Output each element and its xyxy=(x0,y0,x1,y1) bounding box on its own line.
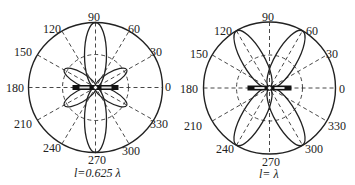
label-180: 180 xyxy=(6,81,24,95)
label-120: 120 xyxy=(43,22,61,36)
label-60: 60 xyxy=(128,22,140,36)
label-210: 210 xyxy=(184,119,202,133)
polar-plot-left xyxy=(29,23,163,153)
label-90: 90 xyxy=(262,10,274,24)
label-210: 210 xyxy=(14,117,32,131)
angle-labels-right: 0 30 60 90 120 150 180 210 240 270 300 3… xyxy=(180,10,346,181)
dipole-antenna xyxy=(73,85,119,90)
label-240: 240 xyxy=(43,141,61,155)
caption-right: l= λ xyxy=(259,167,279,181)
label-150: 150 xyxy=(14,45,32,59)
dipole-antenna xyxy=(248,86,292,91)
label-0: 0 xyxy=(165,80,171,94)
label-60: 60 xyxy=(306,24,318,38)
label-120: 120 xyxy=(214,24,232,38)
label-270: 270 xyxy=(88,153,106,167)
label-300: 300 xyxy=(122,144,140,158)
label-90: 90 xyxy=(88,10,100,24)
label-30: 30 xyxy=(150,45,162,59)
label-0: 0 xyxy=(339,82,345,96)
polar-plot-right xyxy=(204,22,336,154)
label-300: 300 xyxy=(305,142,323,156)
caption-left: l=0.625 λ xyxy=(74,166,121,180)
label-330: 330 xyxy=(328,119,346,133)
label-180: 180 xyxy=(180,82,198,96)
label-150: 150 xyxy=(190,47,208,61)
label-240: 240 xyxy=(216,142,234,156)
label-30: 30 xyxy=(326,47,338,61)
diagram-canvas: 0 30 60 90 120 150 180 210 240 270 300 3… xyxy=(0,0,355,185)
label-330: 330 xyxy=(150,117,168,131)
